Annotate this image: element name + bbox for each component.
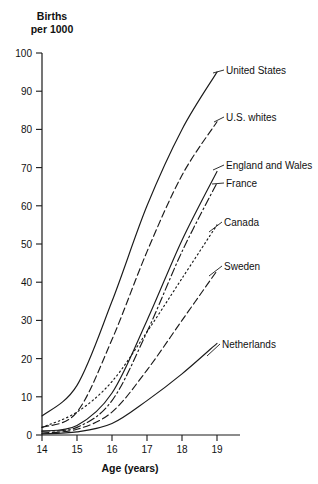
leader-line-france: [212, 183, 224, 184]
y-tick-label-90: 90: [21, 86, 33, 97]
birth-rate-chart: Births per 1000 100 90 80 70 60 50 40 30…: [0, 0, 318, 484]
curve-united-states: [42, 72, 217, 416]
series-label-canada: Canada: [224, 217, 259, 228]
y-tick-label-50: 50: [21, 239, 33, 250]
y-tick-label-30: 30: [21, 315, 33, 326]
x-tick-label-17: 17: [141, 444, 153, 455]
y-axis-ticks: [36, 53, 42, 435]
series-label-united-states: United States: [226, 65, 286, 76]
series-label-england-and-wales: England and Wales: [226, 160, 312, 171]
series-label-france: France: [226, 178, 258, 189]
y-axis-title-line1: Births: [37, 10, 67, 22]
y-tick-label-80: 80: [21, 124, 33, 135]
leader-line-us-whites: [214, 117, 224, 122]
y-axis-title-line2: per 1000: [31, 23, 74, 35]
data-curves-group: [42, 72, 217, 434]
leader-line-canada: [209, 222, 222, 232]
series-label-netherlands: Netherlands: [222, 339, 276, 350]
x-axis-title: Age (years): [101, 462, 158, 474]
y-tick-label-10: 10: [21, 392, 33, 403]
leader-line-united-states: [213, 70, 224, 73]
x-tick-label-14: 14: [36, 444, 48, 455]
y-tick-label-70: 70: [21, 163, 33, 174]
curve-u-s-whites: [42, 122, 217, 428]
y-tick-label-60: 60: [21, 201, 33, 212]
y-tick-label-20: 20: [21, 354, 33, 365]
x-tick-label-16: 16: [106, 444, 118, 455]
x-tick-label-18: 18: [176, 444, 188, 455]
y-tick-label-0: 0: [26, 430, 32, 441]
leader-line-england-and-wales: [213, 165, 224, 170]
x-tick-label-19: 19: [211, 444, 223, 455]
series-label-sweden: Sweden: [224, 261, 260, 272]
leader-lines-group: [207, 70, 224, 356]
y-tick-label-40: 40: [21, 277, 33, 288]
x-axis-ticks: [42, 435, 217, 441]
leader-line-sweden: [209, 266, 222, 276]
x-tick-label-15: 15: [71, 444, 83, 455]
y-tick-label-100: 100: [15, 48, 32, 59]
series-label-us-whites: U.S. whites: [226, 112, 277, 123]
